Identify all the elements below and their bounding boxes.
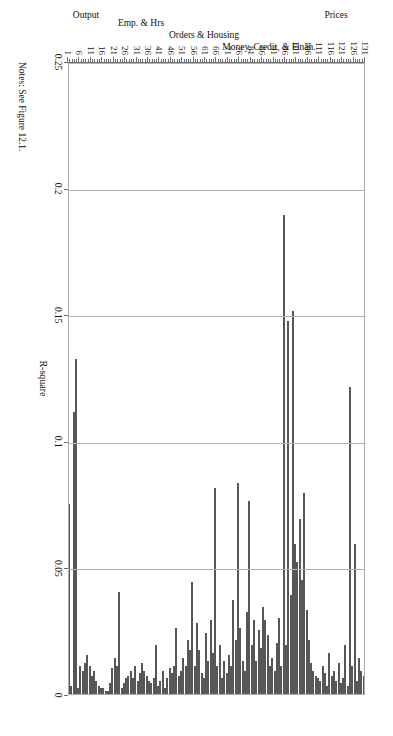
value-tick <box>64 62 68 63</box>
value-tick <box>64 442 68 443</box>
category-tick-label: 81 <box>246 46 256 55</box>
bar <box>349 387 351 694</box>
category-tick-label: 101 <box>291 42 301 56</box>
category-tick-label: 36 <box>143 46 153 55</box>
bar <box>118 592 120 694</box>
category-tick-label: 46 <box>166 46 176 55</box>
group-label: Emp. & Hrs <box>136 0 146 30</box>
bar <box>214 488 216 694</box>
category-tick-label: 86 <box>257 46 267 55</box>
bar <box>354 544 356 694</box>
group-label-column: OutputEmp. & HrsOrders & HousingMoney, C… <box>68 0 365 30</box>
value-tick-label: 0.15 <box>53 307 63 324</box>
group-label: Output <box>81 0 91 30</box>
category-tick-label: 116 <box>326 42 336 55</box>
category-tick-label: 106 <box>303 42 313 56</box>
category-tick-label: 131 <box>360 42 370 56</box>
category-tick-label: 126 <box>349 42 359 56</box>
group-label: Prices <box>331 0 341 30</box>
gridline <box>69 190 364 191</box>
category-tick-label: 21 <box>109 46 119 55</box>
value-tick <box>64 568 68 569</box>
bar-series <box>69 63 364 694</box>
group-label-text: Emp. & Hrs <box>118 18 164 28</box>
group-label-text: Prices <box>325 10 348 20</box>
category-tick-label: 41 <box>154 46 164 55</box>
value-tick-label: 0.05 <box>53 560 63 577</box>
plot-area <box>68 62 365 695</box>
category-tick-label: 1 <box>63 51 73 56</box>
category-tick-label: 56 <box>189 46 199 55</box>
bar <box>363 676 364 694</box>
category-tick-label: 71 <box>223 46 233 55</box>
value-tick-label: 0.1 <box>53 436 63 448</box>
value-axis-title: R-square <box>38 62 49 695</box>
value-tick <box>64 189 68 190</box>
bar <box>75 359 77 694</box>
group-label: Money, Credit, & Finan. <box>264 0 274 30</box>
value-tick-label: 0 <box>53 693 63 698</box>
value-tick <box>64 315 68 316</box>
value-tick-label: 0.2 <box>53 183 63 195</box>
category-tick-label: 111 <box>314 42 324 55</box>
category-tick-label: 121 <box>337 42 347 56</box>
group-label: Orders & Housing <box>199 0 209 30</box>
category-tick-label: 11 <box>86 46 96 55</box>
category-tick-label: 91 <box>269 46 279 55</box>
value-tick-label: 0.25 <box>53 54 63 71</box>
category-tick-label: 51 <box>177 46 187 55</box>
bar <box>283 215 285 694</box>
gridline <box>69 316 364 317</box>
rotated-figure-wrapper: OutputEmp. & HrsOrders & HousingMoney, C… <box>0 0 393 736</box>
bar <box>69 504 70 694</box>
category-tick-label: 76 <box>234 46 244 55</box>
value-tick <box>64 695 68 696</box>
category-tick-label: 96 <box>280 46 290 55</box>
figure-canvas: OutputEmp. & HrsOrders & HousingMoney, C… <box>0 0 393 736</box>
category-tick-label: 61 <box>200 46 210 55</box>
category-tick-label: 66 <box>212 46 222 55</box>
category-axis: 1611162126313641465156616671768186919610… <box>68 30 365 62</box>
category-tick-label: 6 <box>74 51 84 56</box>
gridline <box>69 63 364 64</box>
category-tick-label: 16 <box>97 46 107 55</box>
category-tick-label: 31 <box>132 46 142 55</box>
group-label-text: Output <box>73 10 99 20</box>
gridline <box>69 569 364 570</box>
figure-notes: Notes: See Figure 12.1. <box>17 62 27 151</box>
category-tick-label: 26 <box>120 46 130 55</box>
gridline <box>69 443 364 444</box>
